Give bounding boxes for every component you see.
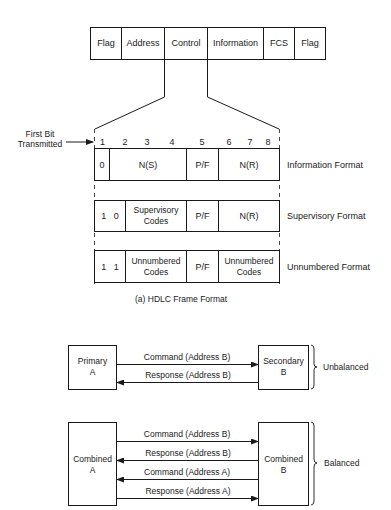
combined-b-box xyxy=(259,423,309,506)
unn-bits-cell: 1 1 xyxy=(101,262,119,272)
control-expansion-lines xyxy=(95,60,279,130)
figure-caption: (a) HDLC Frame Format xyxy=(135,294,228,304)
unn-codes-cell-line2: Codes xyxy=(144,267,169,277)
balanced-arrow-label: Response (Address B) xyxy=(145,448,231,458)
unnumbered-format-row: 1 1 Unnumbered Codes P/F Unnumbered Code… xyxy=(95,251,371,283)
bit-number: 6 xyxy=(226,137,231,147)
first-bit-label-line1: First Bit xyxy=(26,129,55,139)
info-pf-cell: P/F xyxy=(195,160,210,170)
bit-number: 3 xyxy=(144,137,149,147)
primary-station-label-line2: A xyxy=(90,367,96,377)
frame-field-information: Information xyxy=(213,38,258,48)
info-ns-cell: N(S) xyxy=(139,160,158,170)
secondary-station-label-line1: Secondary xyxy=(263,356,304,366)
bit-numbers: 1 2 3 4 5 6 7 8 xyxy=(100,137,271,147)
info-nr-cell: N(R) xyxy=(240,160,259,170)
brace-icon xyxy=(311,345,317,389)
balanced-arrow-label: Command (Address A) xyxy=(144,467,230,477)
unn-codes2-cell-line2: Codes xyxy=(237,267,262,277)
brace-icon xyxy=(311,422,317,505)
unbalanced-arrow-label: Command (Address B) xyxy=(144,352,231,362)
unnumbered-format-label: Unnumbered Format xyxy=(287,262,371,272)
information-format-label: Information Format xyxy=(287,160,364,170)
unbalanced-arrow-label: Response (Address B) xyxy=(145,370,231,380)
unbalanced-label: Unbalanced xyxy=(323,362,369,372)
sup-pf-cell: P/F xyxy=(195,211,210,221)
frame-field-fcs: FCS xyxy=(270,38,288,48)
combined-b-label-line2: B xyxy=(281,465,287,475)
unbalanced-configuration: Primary A Secondary B Command (Address B… xyxy=(69,345,369,390)
bit-number: 5 xyxy=(199,137,204,147)
sup-nr-cell: N(R) xyxy=(240,211,259,221)
bit-number: 1 xyxy=(100,137,105,147)
balanced-configuration: Combined A Combined B Command (Address B… xyxy=(69,422,360,506)
sup-codes-cell-line1: Supervisory xyxy=(134,205,180,215)
frame-field-flag-start: Flag xyxy=(97,38,115,48)
sup-codes-cell-line2: Codes xyxy=(144,216,169,226)
unn-pf-cell: P/F xyxy=(195,262,210,272)
secondary-station-label-line2: B xyxy=(281,367,287,377)
hdlc-diagram: Flag Address Control Information FCS Fla… xyxy=(0,0,391,510)
information-format-row: 0 N(S) P/F N(R) Information Format xyxy=(95,149,364,181)
balanced-arrow-label: Command (Address B) xyxy=(144,429,231,439)
frame-field-address: Address xyxy=(126,38,160,48)
supervisory-format-label: Supervisory Format xyxy=(287,211,366,221)
combined-a-label-line2: A xyxy=(90,465,96,475)
supervisory-format-row: 1 0 Supervisory Codes P/F N(R) Superviso… xyxy=(95,201,367,232)
bit-number: 8 xyxy=(265,137,270,147)
bit-number: 2 xyxy=(122,137,127,147)
combined-a-label-line1: Combined xyxy=(73,454,112,464)
first-bit-label-line2: Transmitted xyxy=(18,139,63,149)
unn-codes-cell-line1: Unnumbered xyxy=(131,256,180,266)
combined-b-label-line1: Combined xyxy=(264,454,303,464)
info-bit1-cell: 0 xyxy=(99,160,104,170)
sup-bits-cell: 1 0 xyxy=(101,211,119,221)
balanced-arrow-label: Response (Address A) xyxy=(145,486,230,496)
combined-a-box xyxy=(69,423,117,506)
frame-field-control: Control xyxy=(171,38,200,48)
bit-number: 4 xyxy=(169,137,174,147)
unn-codes2-cell-line1: Unnumbered xyxy=(224,256,273,266)
bit-number: 7 xyxy=(247,137,252,147)
primary-station-label-line1: Primary xyxy=(78,356,108,366)
frame-field-flag-end: Flag xyxy=(301,38,319,48)
balanced-label: Balanced xyxy=(324,458,360,468)
